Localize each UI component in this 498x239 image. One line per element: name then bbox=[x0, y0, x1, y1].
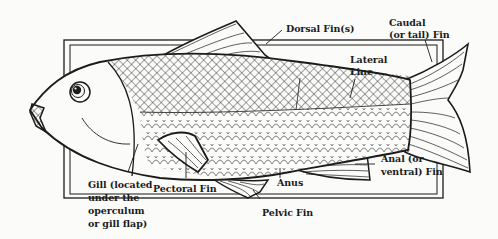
label-anal-fin-1: Anal (or bbox=[381, 153, 423, 165]
label-anus: Anus bbox=[277, 177, 303, 189]
pelvic-fin bbox=[212, 178, 268, 198]
label-gill-2: under the bbox=[88, 192, 139, 204]
label-lateral-line-2: Line bbox=[350, 66, 373, 78]
label-gill-1: Gill (located bbox=[88, 179, 152, 191]
fish-anatomy-diagram: Dorsal Fin(s) Caudal (or tail) Fin Later… bbox=[0, 0, 498, 239]
label-pelvic-fin: Pelvic Fin bbox=[262, 207, 313, 219]
label-dorsal-fin: Dorsal Fin(s) bbox=[286, 23, 354, 35]
label-caudal-fin-2: (or tail) Fin bbox=[389, 29, 450, 41]
label-gill-3: operculum bbox=[88, 205, 144, 217]
label-gill-4: or gill flap) bbox=[88, 218, 147, 230]
label-anal-fin-2: ventral) Fin bbox=[381, 166, 443, 178]
label-pectoral-fin: Pectoral Fin bbox=[153, 183, 217, 195]
label-caudal-fin-1: Caudal bbox=[389, 17, 425, 29]
label-lateral-line-1: Lateral bbox=[350, 54, 387, 66]
